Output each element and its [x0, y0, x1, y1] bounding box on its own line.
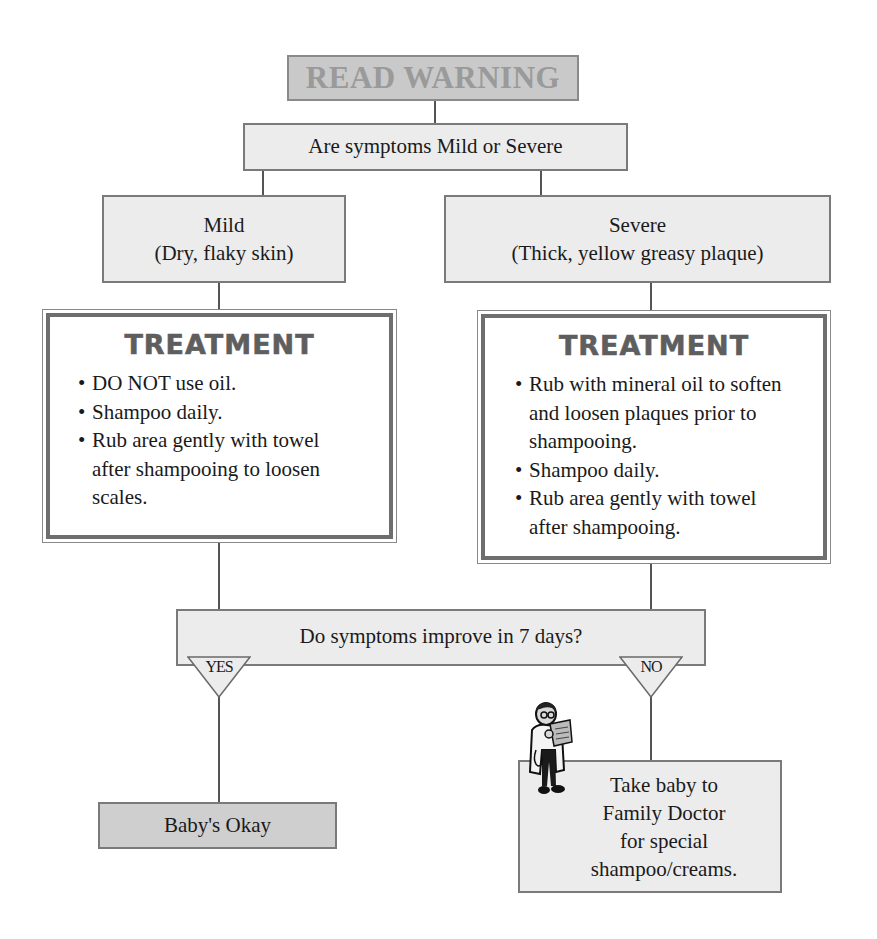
- severe-label: Severe: [446, 211, 829, 239]
- severe-treatment-item: Rub area gently with towel after shampoo…: [515, 484, 791, 541]
- severity-question-box: Are symptoms Mild or Severe: [243, 123, 628, 171]
- mild-treatment-item: DO NOT use oil.: [78, 369, 389, 398]
- connector-severe-treatment-improve: [650, 563, 652, 610]
- severe-treatment-box: TREATMENT Rub with mineral oil to soften…: [477, 310, 831, 564]
- yes-label: YES: [187, 658, 251, 676]
- connector-mild-treatment: [218, 282, 220, 310]
- doctor-with-clipboard-icon: [522, 700, 574, 798]
- severe-treatment-item: Shampoo daily.: [515, 456, 823, 485]
- no-label: NO: [619, 658, 683, 676]
- improve-question-text: Do symptoms improve in 7 days?: [300, 624, 583, 648]
- mild-description: (Dry, flaky skin): [104, 239, 344, 267]
- read-warning-box: READ WARNING: [287, 55, 579, 101]
- severe-treatment-heading: TREATMENT: [485, 328, 823, 364]
- mild-treatment-heading: TREATMENT: [50, 327, 389, 363]
- mild-treatment-item: Rub area gently with towel after shampoo…: [78, 426, 342, 512]
- connector-no-doctor: [650, 696, 652, 761]
- baby-okay-box: Baby's Okay: [98, 802, 337, 849]
- mild-treatment-list: DO NOT use oil. Shampoo daily. Rub area …: [50, 369, 389, 512]
- mild-treatment-item: Shampoo daily.: [78, 398, 389, 427]
- doctor-outcome-line: Family Doctor: [548, 799, 780, 827]
- severe-box: Severe (Thick, yellow greasy plaque): [444, 195, 831, 283]
- mild-treatment-box: TREATMENT DO NOT use oil. Shampoo daily.…: [42, 309, 397, 543]
- severe-treatment-list: Rub with mineral oil to soften and loose…: [485, 370, 823, 541]
- connector-question-severe: [540, 170, 542, 196]
- connector-severe-treatment: [650, 282, 652, 311]
- severe-description: (Thick, yellow greasy plaque): [446, 239, 829, 267]
- no-branch-marker: NO: [619, 656, 683, 698]
- baby-okay-text: Baby's Okay: [164, 813, 271, 837]
- severe-treatment-item: Rub with mineral oil to soften and loose…: [515, 370, 799, 456]
- severity-question-text: Are symptoms Mild or Severe: [308, 134, 562, 158]
- connector-warning-question: [434, 100, 436, 124]
- yes-branch-marker: YES: [187, 656, 251, 698]
- read-warning-title: READ WARNING: [289, 57, 577, 98]
- mild-box: Mild (Dry, flaky skin): [102, 195, 346, 283]
- doctor-outcome-line: for special: [548, 827, 780, 855]
- connector-yes-okay: [218, 696, 220, 803]
- doctor-outcome-line: shampoo/creams.: [548, 855, 780, 883]
- connector-question-mild: [262, 170, 264, 196]
- doctor-outcome-line: Take baby to: [548, 771, 780, 799]
- connector-mild-treatment-improve: [218, 542, 220, 610]
- mild-label: Mild: [104, 211, 344, 239]
